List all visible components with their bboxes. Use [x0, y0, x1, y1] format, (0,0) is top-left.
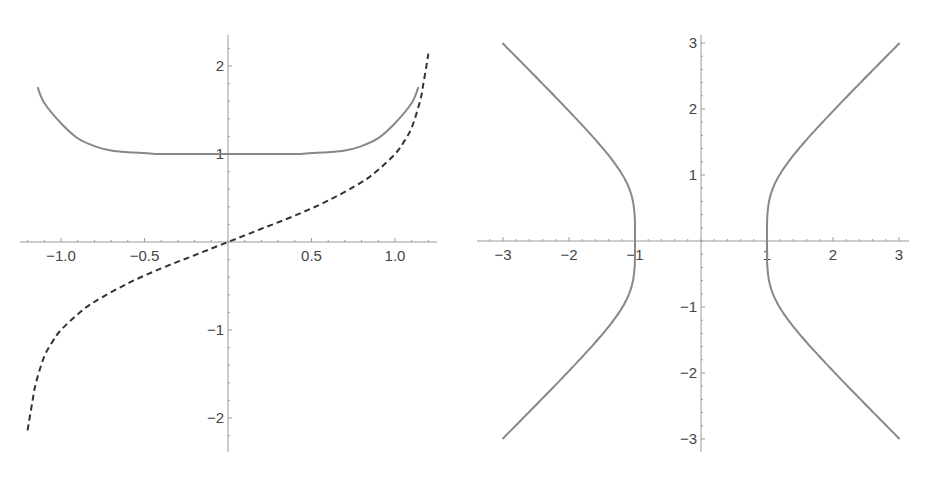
y-tick-label: −3	[680, 430, 697, 447]
x-tick-label: −1.0	[46, 247, 76, 264]
x-tick-label: 2	[829, 246, 837, 263]
x-tick-label: −3	[494, 246, 511, 263]
y-tick-label: −2	[207, 409, 224, 426]
y-tick-label: −1	[680, 298, 697, 315]
right-plot: −3−2−1123−3−2−1123	[465, 0, 930, 478]
y-tick-label: 2	[216, 57, 224, 74]
right-axes	[477, 35, 909, 452]
x-tick-label: −2	[560, 246, 577, 263]
left-axes	[20, 35, 437, 452]
y-tick-label: 2	[689, 100, 697, 117]
x-tick-label: 1.0	[385, 247, 406, 264]
left-plot: −1.0−0.50.51.0−2−112	[0, 0, 465, 478]
x-tick-label: 3	[895, 246, 903, 263]
left-plot-canvas: −1.0−0.50.51.0−2−112	[0, 0, 465, 478]
y-tick-label: 3	[689, 34, 697, 51]
y-tick-label: −1	[207, 321, 224, 338]
y-tick-label: −2	[680, 364, 697, 381]
x-tick-label: −0.5	[130, 247, 160, 264]
y-tick-label: 1	[689, 166, 697, 183]
x-tick-label: 0.5	[301, 247, 322, 264]
right-plot-canvas: −3−2−1123−3−2−1123	[465, 0, 930, 478]
